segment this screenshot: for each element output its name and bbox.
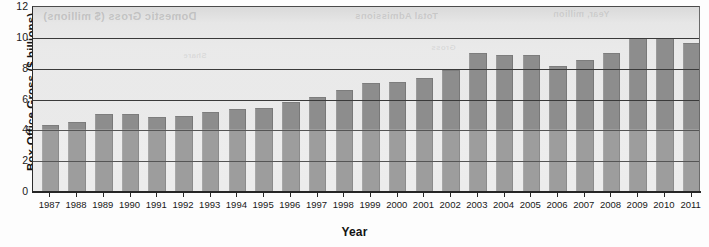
x-tick-label-1993: 1993 <box>199 199 220 210</box>
x-axis-title: Year <box>0 225 709 239</box>
x-tick-1996 <box>290 191 291 197</box>
x-tick-2010 <box>664 191 665 197</box>
bar-1987 <box>42 125 60 191</box>
x-tick-2001 <box>423 191 424 197</box>
bar-1994 <box>229 109 247 191</box>
x-tick-2006 <box>557 191 558 197</box>
bar-1993 <box>202 112 220 191</box>
x-tick-2002 <box>450 191 451 197</box>
x-tick-1990 <box>130 191 131 197</box>
x-tick-label-2000: 2000 <box>386 199 407 210</box>
x-axis-line <box>32 191 701 193</box>
bar-2007 <box>576 60 594 191</box>
gridline-2 <box>33 161 699 162</box>
gridline-10 <box>33 38 699 39</box>
x-tick-1999 <box>370 191 371 197</box>
x-tick-label-2004: 2004 <box>493 199 514 210</box>
x-tick-label-1990: 1990 <box>119 199 140 210</box>
x-tick-label-1992: 1992 <box>172 199 193 210</box>
x-tick-2009 <box>637 191 638 197</box>
bar-1997 <box>309 97 327 191</box>
bar-2001 <box>416 78 434 191</box>
bar-1992 <box>175 116 193 191</box>
bar-1990 <box>122 114 140 191</box>
y-tick-label-4: 4 <box>6 123 28 135</box>
bar-2010 <box>656 38 674 191</box>
x-tick-2000 <box>397 191 398 197</box>
x-tick-label-2003: 2003 <box>466 199 487 210</box>
x-tick-label-2007: 2007 <box>573 199 594 210</box>
bar-2009 <box>629 38 647 191</box>
x-tick-label-1988: 1988 <box>66 199 87 210</box>
x-tick-label-2002: 2002 <box>440 199 461 210</box>
x-tick-1991 <box>156 191 157 197</box>
x-tick-label-1999: 1999 <box>359 199 380 210</box>
x-tick-2008 <box>610 191 611 197</box>
x-tick-2004 <box>504 191 505 197</box>
chart-screenshot: Box-Office Gross ($ billions) 024681012 … <box>0 0 709 247</box>
bar-1988 <box>68 122 86 191</box>
y-tick-label-6: 6 <box>6 93 28 105</box>
x-tick-label-2008: 2008 <box>600 199 621 210</box>
bar-1995 <box>255 108 273 191</box>
x-tick-1993 <box>210 191 211 197</box>
bar-1991 <box>148 117 166 191</box>
bar-2005 <box>523 55 541 191</box>
y-tick-label-2: 2 <box>6 154 28 166</box>
x-tick-label-2009: 2009 <box>627 199 648 210</box>
x-tick-2011 <box>691 191 692 197</box>
y-tick-label-10: 10 <box>6 31 28 43</box>
y-tick-label-0: 0 <box>6 185 28 197</box>
x-tick-label-1994: 1994 <box>226 199 247 210</box>
bar-1996 <box>282 102 300 191</box>
y-tick-label-8: 8 <box>6 62 28 74</box>
bar-2011 <box>683 43 700 191</box>
x-tick-1998 <box>343 191 344 197</box>
x-tick-1988 <box>76 191 77 197</box>
plot-area: Domestic Gross ($ millions) Total Admiss… <box>32 6 700 191</box>
x-tick-1992 <box>183 191 184 197</box>
bar-2004 <box>496 55 514 191</box>
x-tick-1994 <box>236 191 237 197</box>
bar-1998 <box>336 90 354 191</box>
x-tick-label-2010: 2010 <box>653 199 674 210</box>
x-tick-label-1998: 1998 <box>333 199 354 210</box>
x-tick-label-1989: 1989 <box>92 199 113 210</box>
bar-2003 <box>469 53 487 191</box>
x-tick-2007 <box>584 191 585 197</box>
x-tick-label-1991: 1991 <box>146 199 167 210</box>
x-tick-1997 <box>317 191 318 197</box>
bar-2008 <box>603 53 621 191</box>
x-tick-1987 <box>49 191 50 197</box>
gridline-8 <box>33 69 699 70</box>
y-axis-tick-labels: 024681012 <box>6 0 28 247</box>
x-tick-label-1987: 1987 <box>39 199 60 210</box>
x-tick-2005 <box>530 191 531 197</box>
bar-2006 <box>549 66 567 191</box>
x-tick-1989 <box>103 191 104 197</box>
x-tick-label-2011: 2011 <box>680 199 700 210</box>
gridline-4 <box>33 130 699 131</box>
gridline-6 <box>33 100 699 101</box>
x-tick-label-2006: 2006 <box>546 199 567 210</box>
x-tick-label-2001: 2001 <box>413 199 434 210</box>
x-tick-label-2005: 2005 <box>520 199 541 210</box>
x-tick-label-1995: 1995 <box>253 199 274 210</box>
x-tick-label-1996: 1996 <box>279 199 300 210</box>
y-tick-label-12: 12 <box>6 0 28 12</box>
x-tick-1995 <box>263 191 264 197</box>
x-tick-label-1997: 1997 <box>306 199 327 210</box>
x-tick-2003 <box>477 191 478 197</box>
bar-2000 <box>389 82 407 191</box>
bar-1989 <box>95 114 113 191</box>
